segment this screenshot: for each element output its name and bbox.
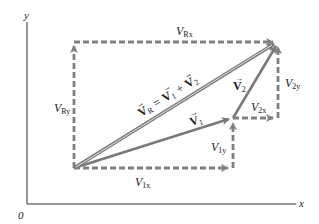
origin-label: 0 <box>18 209 24 221</box>
solid-vectors <box>74 44 276 168</box>
v1-vector <box>74 119 229 168</box>
v2x-label: V2x <box>251 100 266 115</box>
vry-label: VRy <box>54 101 70 116</box>
v2-label: V2 → <box>233 74 246 94</box>
y-axis-label: y <box>23 9 29 21</box>
vector-addition-diagram: y x 0 VRx VRy V1x V1y <box>0 0 319 224</box>
v1x-label: V1x <box>135 175 150 190</box>
vector-arrow-icon: → <box>235 74 243 83</box>
x-axis-label: x <box>298 197 304 209</box>
vrx-label: VRx <box>176 24 193 39</box>
resultant-vector-highlight <box>76 45 272 167</box>
v2y-label: V2y <box>285 76 300 91</box>
v1y-label: V1y <box>211 140 226 155</box>
v1-label: V1 → <box>186 107 204 130</box>
